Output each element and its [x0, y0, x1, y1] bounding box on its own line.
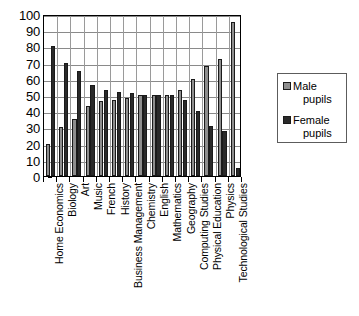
bar-group [189, 16, 202, 176]
bar-female [64, 63, 68, 176]
y-tick-mark [48, 177, 52, 178]
x-tick-mark [228, 177, 229, 182]
x-tick-mark [109, 177, 110, 182]
x-axis-label: Geography [186, 183, 197, 234]
x-tick-mark [215, 177, 216, 182]
x-axis-label: Chemistry [146, 183, 157, 229]
plot-area [43, 15, 241, 177]
bar-female [130, 93, 134, 176]
bar-female [209, 126, 213, 176]
bar-group [70, 16, 83, 176]
legend-label-female: Female pupils [293, 114, 332, 140]
x-axis-label: Mathematics [172, 183, 183, 241]
x-tick-mark [175, 177, 176, 182]
x-tick-mark [96, 177, 97, 182]
bar-group [150, 16, 163, 176]
bar-female [77, 71, 81, 176]
x-tick-mark [122, 177, 123, 182]
bar-male [178, 90, 182, 176]
bar-male [125, 98, 129, 176]
bar-group [229, 16, 242, 176]
x-axis-label: Physics [225, 183, 236, 218]
bar-female [117, 92, 121, 176]
x-axis-label: Biology [67, 183, 78, 217]
y-axis: 1009080706050403020100 [8, 8, 40, 186]
bar-group [163, 16, 176, 176]
x-tick-mark [162, 177, 163, 182]
bar-female [156, 95, 160, 176]
x-tick-mark [188, 177, 189, 182]
bar-male [165, 95, 169, 176]
legend-item-female: Female pupils [283, 114, 346, 140]
bar-female [170, 95, 174, 176]
bar-male [86, 106, 90, 176]
bar-male [138, 95, 142, 176]
bar-female [104, 90, 108, 176]
x-tick-mark [241, 177, 242, 182]
x-tick-mark [83, 177, 84, 182]
bar-male [204, 66, 208, 176]
x-tick-mark [149, 177, 150, 182]
x-axis-label: Home Economics [54, 183, 65, 264]
y-tick-label: 30 [26, 122, 40, 135]
bar-group [110, 16, 123, 176]
bar-male [99, 101, 103, 176]
x-axis-labels: Home EconomicsBiologyArtMusicFrenchHisto… [0, 183, 359, 303]
bar-female [51, 46, 55, 176]
x-axis-label: Business Management [133, 183, 144, 288]
bar-group [176, 16, 189, 176]
x-axis-label: History [120, 183, 131, 215]
bar-group [84, 16, 97, 176]
bars-layer [44, 16, 240, 176]
bar-male [72, 119, 76, 176]
legend-swatch-male-icon [283, 82, 291, 90]
bar-female [196, 111, 200, 176]
bar-male [231, 22, 235, 176]
x-axis-label: Technological Studies [238, 183, 249, 282]
x-axis-label: Music [93, 183, 104, 210]
y-tick-label: 100 [19, 9, 40, 22]
bar-group [216, 16, 229, 176]
bar-chart: 1009080706050403020100 Home EconomicsBio… [0, 0, 359, 316]
x-axis-label: Art [80, 183, 91, 196]
x-tick-mark [69, 177, 70, 182]
bar-female [236, 168, 240, 176]
bar-male [59, 127, 63, 176]
x-axis-label: Physical Education [212, 183, 223, 270]
x-tick-mark [56, 177, 57, 182]
x-tick-mark [43, 177, 44, 182]
bar-group [57, 16, 70, 176]
y-tick-label: 80 [26, 41, 40, 54]
y-tick-label: 90 [26, 25, 40, 38]
x-tick-mark [135, 177, 136, 182]
bar-group [123, 16, 136, 176]
y-tick-label: 50 [26, 90, 40, 103]
bar-group [136, 16, 149, 176]
x-tick-mark [201, 177, 202, 182]
bar-female [183, 100, 187, 176]
bar-male [112, 100, 116, 176]
bar-group [97, 16, 110, 176]
y-tick-label: 20 [26, 139, 40, 152]
y-tick-label: 70 [26, 58, 40, 71]
bar-male [46, 144, 50, 176]
y-tick-label: 40 [26, 106, 40, 119]
bar-group [44, 16, 57, 176]
bar-male [152, 95, 156, 176]
legend-item-male: Male pupils [283, 80, 346, 106]
bar-male [218, 59, 222, 176]
bar-group [202, 16, 215, 176]
bar-female [143, 95, 147, 176]
bar-male [191, 79, 195, 176]
legend-label-male: Male pupils [293, 80, 332, 106]
y-tick-label: 60 [26, 74, 40, 87]
x-axis-label: English [159, 183, 170, 217]
legend-swatch-female-icon [283, 116, 291, 124]
x-axis-label: French [106, 183, 117, 215]
bar-female [90, 85, 94, 176]
y-tick-label: 10 [26, 155, 40, 168]
x-axis-label: Computing Studies [199, 183, 210, 270]
bar-female [222, 131, 226, 176]
chart-legend: Male pupils Female pupils [277, 73, 347, 143]
